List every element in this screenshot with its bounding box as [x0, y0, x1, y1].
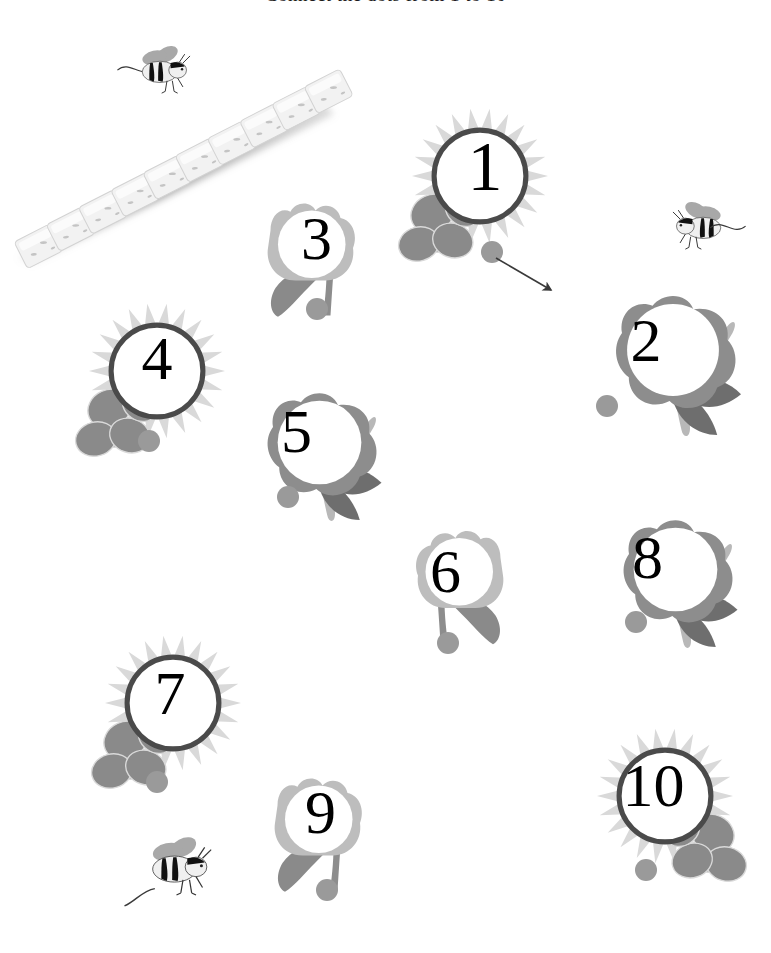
flower-5-dot[interactable] — [277, 486, 299, 508]
pencil-stroke-from-dot-1 — [488, 250, 559, 298]
cropped-title-strip: Connect the dots from 1 to 10 — [0, 0, 771, 10]
flower-5[interactable] — [242, 378, 397, 538]
flower-6-dot[interactable] — [437, 632, 459, 654]
flower-2-dot[interactable] — [596, 395, 618, 417]
bee-right-icon — [636, 196, 756, 258]
page-title: Connect the dots from 1 to 10 — [265, 0, 506, 6]
flower-4[interactable] — [72, 293, 242, 483]
flower-10[interactable] — [580, 718, 750, 908]
flower-9-dot[interactable] — [316, 879, 338, 901]
bee-top-left-icon — [112, 40, 222, 102]
flower-2[interactable] — [588, 282, 758, 452]
flower-4-dot[interactable] — [138, 430, 160, 452]
worksheet-page: Connect the dots from 1 to 10 — [0, 0, 771, 953]
flower-7[interactable] — [88, 625, 258, 815]
flower-3-dot[interactable] — [306, 298, 328, 320]
bee-bottom-icon — [118, 828, 248, 908]
flower-7-dot[interactable] — [146, 771, 168, 793]
flower-8[interactable] — [598, 505, 753, 665]
flower-6[interactable] — [398, 508, 523, 663]
flower-10-dot[interactable] — [635, 859, 657, 881]
flower-8-dot[interactable] — [625, 611, 647, 633]
